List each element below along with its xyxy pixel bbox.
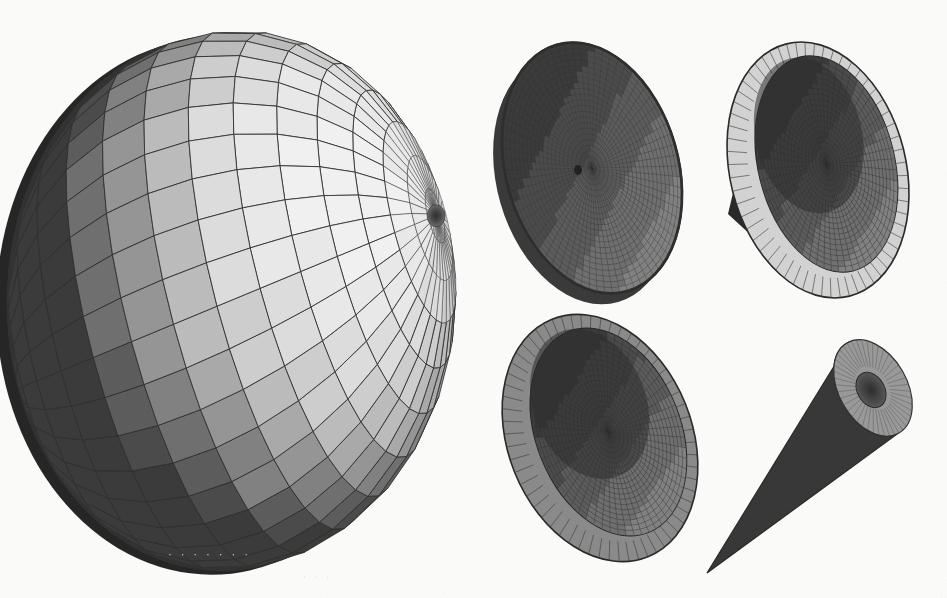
bleed-through-text-b: · · ·	[300, 572, 329, 582]
bleed-through-text-a: · · · · · · ·	[165, 548, 248, 560]
figure-root: · · · · · · · · · ·	[0, 0, 947, 598]
cone-apex-dimple	[574, 165, 582, 175]
ellipsoid-pole-cap	[427, 205, 445, 227]
rendered-3d-surfaces-scene	[0, 0, 947, 598]
